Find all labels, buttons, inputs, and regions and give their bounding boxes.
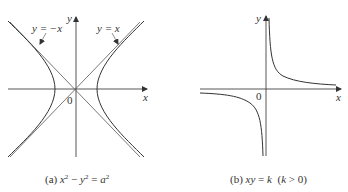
caption-b: (b) xy = k (k > 0) xyxy=(230,173,307,186)
hyperbola-q1-branch xyxy=(269,18,336,85)
leader-neg xyxy=(40,33,46,44)
origin-label-b: 0 xyxy=(256,90,262,102)
y-axis-label-b: y xyxy=(255,12,261,24)
origin-label-a: 0 xyxy=(67,94,73,106)
leader-pos xyxy=(112,33,118,44)
asymptote-neg-label: y = −x xyxy=(31,22,62,34)
figure-a: y = −x y = x y x 0 (a) x2 − y2 = a2 xyxy=(8,12,148,186)
asymptote-pos-label: y = x xyxy=(96,22,120,34)
figure-b: y x 0 (b) xy = k (k > 0) xyxy=(200,12,341,186)
hyperbola-q3-branch xyxy=(200,93,263,156)
caption-a: (a) x2 − y2 = a2 xyxy=(45,173,110,186)
x-axis-label-b: x xyxy=(335,91,341,103)
x-axis-label-a: x xyxy=(142,91,148,103)
y-axis-label-a: y xyxy=(66,12,72,24)
